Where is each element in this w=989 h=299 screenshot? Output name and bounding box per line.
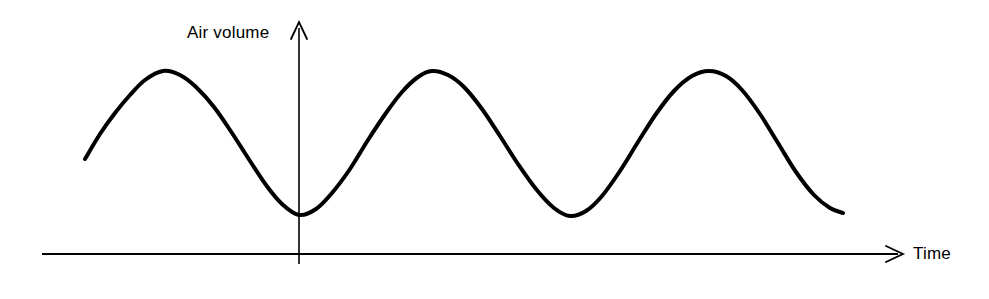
y-axis-label: Air volume <box>187 24 269 41</box>
air-volume-curve <box>85 71 843 216</box>
respiration-waveform-figure: Air volume Time <box>0 0 989 299</box>
plot-canvas <box>0 0 989 299</box>
x-axis-label: Time <box>913 245 951 262</box>
